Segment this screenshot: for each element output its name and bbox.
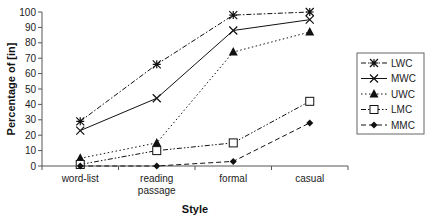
data-point-marker: [305, 27, 314, 36]
series-lmc: [76, 97, 314, 168]
series-uwc: [76, 27, 315, 162]
data-point-marker: [76, 127, 84, 135]
y-tick-label: 40: [25, 99, 37, 110]
y-tick-label: 20: [25, 130, 37, 141]
y-tick-label: 60: [25, 68, 37, 79]
y-tick-label: 50: [25, 84, 37, 95]
line-chart: 0102030405060708090100 word-listreadingp…: [0, 0, 431, 222]
series-line: [80, 123, 310, 166]
y-tick-label: 80: [25, 37, 37, 48]
series-line: [80, 101, 310, 164]
y-tick-label: 0: [30, 161, 36, 172]
legend-label: MWC: [391, 73, 416, 84]
x-tick-label: passage: [138, 185, 176, 196]
x-tick-label: reading: [140, 173, 173, 184]
y-tick-label: 10: [25, 145, 37, 156]
legend-label: LMC: [391, 104, 412, 115]
series-line: [80, 20, 310, 131]
data-point-marker: [153, 163, 160, 170]
x-tick-label: casual: [295, 173, 324, 184]
series-line: [80, 12, 310, 121]
data-point-marker: [153, 147, 161, 155]
data-point-marker: [229, 139, 237, 147]
data-point-marker: [76, 117, 84, 125]
y-tick-label: 90: [25, 22, 37, 33]
legend-marker-icon: [370, 59, 378, 67]
y-axis: 0102030405060708090100: [19, 7, 42, 172]
series-lwc: [76, 8, 314, 125]
x-axis: word-listreadingpassageformalcasual: [42, 166, 348, 196]
y-tick-label: 30: [25, 114, 37, 125]
x-axis-title: Style: [182, 203, 208, 215]
y-tick-label: 100: [19, 7, 36, 18]
x-tick-label: word-list: [61, 173, 99, 184]
data-point-marker: [229, 11, 237, 19]
y-tick-label: 70: [25, 53, 37, 64]
legend-marker-icon: [370, 106, 378, 114]
legend-label: MMC: [391, 120, 415, 131]
series-mwc: [76, 16, 314, 135]
data-point-marker: [306, 119, 313, 126]
legend-label: UWC: [391, 89, 415, 100]
series-mmc: [77, 119, 314, 169]
data-point-marker: [306, 97, 314, 105]
data-point-marker: [306, 8, 314, 16]
legend-label: LWC: [391, 58, 412, 69]
data-point-marker: [230, 158, 237, 165]
plot-area: [76, 8, 315, 170]
y-axis-title: Percentage of [in]: [5, 42, 17, 135]
data-point-marker: [152, 138, 161, 147]
data-point-marker: [153, 60, 161, 68]
legend: LWCMWCUWCLMCMMC: [357, 53, 424, 134]
data-point-marker: [153, 94, 161, 102]
x-tick-label: formal: [219, 173, 247, 184]
